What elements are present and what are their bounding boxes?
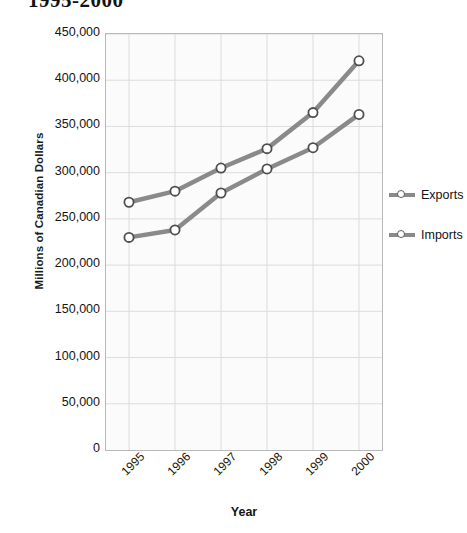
legend-label: Imports (421, 228, 463, 242)
y-tick-label: 0 (28, 441, 100, 455)
legend-item-exports[interactable]: Exports (389, 186, 467, 204)
data-point-exports-2000 (354, 56, 363, 65)
x-axis-title: Year (105, 505, 383, 519)
data-point-exports-1996 (170, 187, 179, 196)
legend-marker-icon (389, 229, 415, 241)
legend-marker-icon (389, 189, 415, 201)
y-tick-label: 100,000 (28, 349, 100, 363)
y-tick-label: 200,000 (28, 256, 100, 270)
data-point-imports-1997 (216, 188, 225, 197)
x-axis-tick-labels: 199519961997199819992000 (105, 451, 383, 511)
data-point-imports-1996 (170, 225, 179, 234)
legend-label: Exports (421, 188, 463, 202)
data-point-exports-1999 (308, 108, 317, 117)
legend-item-imports[interactable]: Imports (389, 226, 467, 244)
chart-legend: ExportsImports (389, 186, 467, 266)
plot-svg (106, 34, 382, 450)
data-point-imports-1995 (124, 233, 133, 242)
x-tick-label: 1997 (211, 450, 240, 479)
y-tick-label: 450,000 (28, 25, 100, 39)
line-chart: 1995-2000 Millions of Canadian Dollars 4… (0, 0, 467, 533)
x-tick-label: 2000 (349, 450, 378, 479)
data-point-imports-1999 (308, 143, 317, 152)
y-tick-label: 400,000 (28, 71, 100, 85)
y-tick-label: 250,000 (28, 210, 100, 224)
y-axis-tick-labels: 450,000400,000350,000300,000250,000200,0… (24, 0, 100, 533)
y-tick-label: 50,000 (28, 395, 100, 409)
x-tick-label: 1998 (257, 450, 286, 479)
x-tick-label: 1999 (303, 450, 332, 479)
y-tick-label: 150,000 (28, 302, 100, 316)
data-point-exports-1998 (262, 144, 271, 153)
x-tick-label: 1995 (119, 450, 148, 479)
series-layer (124, 56, 363, 242)
data-point-imports-1998 (262, 164, 271, 173)
x-tick-label: 1996 (165, 450, 194, 479)
y-tick-label: 300,000 (28, 164, 100, 178)
data-point-exports-1995 (124, 198, 133, 207)
plot-area (105, 33, 383, 451)
gridlines (106, 34, 382, 450)
y-tick-label: 350,000 (28, 117, 100, 131)
data-point-imports-2000 (354, 110, 363, 119)
data-point-exports-1997 (216, 163, 225, 172)
